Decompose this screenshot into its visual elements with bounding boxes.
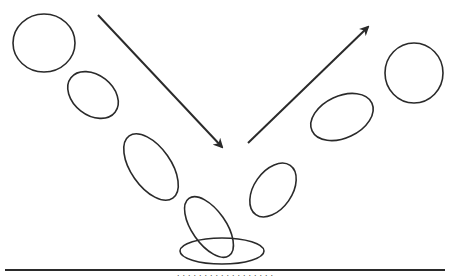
bouncing-ball-diagram (0, 0, 450, 278)
ball-8-shape (385, 43, 443, 103)
ball-6-shape (240, 155, 306, 226)
ball-3-shape (113, 124, 189, 209)
caption-text: · · · · · · · · · · · · · · · · · · (0, 271, 450, 278)
ball-5-shape (180, 238, 264, 264)
balls-group (13, 14, 443, 265)
arrow-incoming-icon (98, 15, 222, 147)
ball-1-shape (13, 14, 75, 72)
ball-2-shape (59, 62, 128, 128)
arrow-outgoing-icon (248, 27, 368, 143)
arrows-group (98, 15, 368, 147)
ball-7-shape (303, 84, 381, 150)
ball-4-shape (175, 189, 243, 266)
